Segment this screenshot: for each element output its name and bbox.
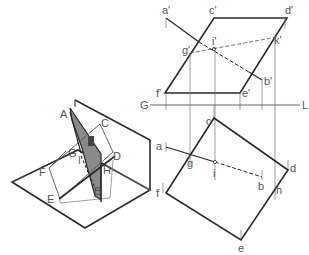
label-c-prime: c'	[209, 4, 217, 16]
diagram-canvas: A C G I D F H E B a' c' d' g' i' k' f' e…	[0, 0, 309, 255]
label-e-prime: e'	[242, 87, 250, 99]
label-C: C	[101, 117, 109, 129]
label-L-gl: L	[302, 99, 308, 111]
edge-FG	[49, 151, 66, 168]
line-ab-front-hidden	[199, 42, 249, 72]
label-G-gl: G	[140, 99, 149, 111]
label-b-prime: b'	[264, 75, 272, 87]
projector-D	[106, 165, 150, 190]
label-c: c	[206, 115, 212, 127]
label-d: d	[290, 162, 296, 174]
point-i-top	[213, 160, 216, 163]
label-g: g	[187, 157, 193, 169]
label-a: a	[156, 140, 163, 152]
label-D: D	[113, 150, 121, 162]
label-g-prime: g'	[182, 44, 190, 56]
label-G: G	[68, 147, 77, 159]
ground-line: G L	[140, 99, 308, 111]
line-a-b-front	[166, 18, 199, 42]
label-i: i	[213, 167, 215, 179]
texture-mark	[88, 136, 94, 146]
horizontal-plane	[12, 150, 150, 228]
label-f: f	[156, 187, 160, 199]
line-ab-top-hidden	[215, 162, 262, 177]
label-F: F	[39, 166, 46, 178]
parallelogram-top	[166, 118, 288, 240]
label-e: e	[238, 242, 244, 254]
label-H: H	[103, 164, 111, 176]
label-d-prime: d'	[285, 4, 293, 16]
line-gk-front	[190, 37, 277, 53]
label-h: h	[276, 184, 282, 196]
label-i-prime: i'	[212, 35, 217, 47]
label-B: B	[94, 185, 101, 197]
label-I: I	[78, 155, 81, 166]
label-b: b	[258, 180, 264, 192]
label-a-prime: a'	[162, 4, 170, 16]
front-view: a' c' d' g' i' k' f' e' b'	[156, 4, 293, 99]
label-f-prime: f'	[156, 87, 161, 99]
pictorial-view: A C G I D F H E B	[12, 100, 150, 228]
label-A: A	[60, 108, 68, 120]
label-E: E	[47, 193, 54, 205]
